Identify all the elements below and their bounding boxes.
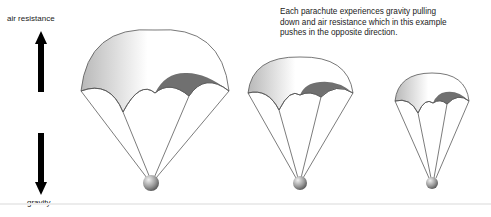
load-ball-icon	[426, 177, 438, 189]
parachute-small	[395, 73, 469, 189]
parachute-diagram	[0, 0, 491, 217]
load-ball-icon	[143, 175, 159, 191]
parachute-large	[81, 30, 229, 191]
load-ball-icon	[293, 176, 307, 190]
air-resistance-arrow-icon	[35, 31, 47, 92]
gravity-arrow-icon	[35, 133, 47, 195]
ground-line	[0, 203, 491, 205]
parachute-medium	[248, 57, 353, 190]
